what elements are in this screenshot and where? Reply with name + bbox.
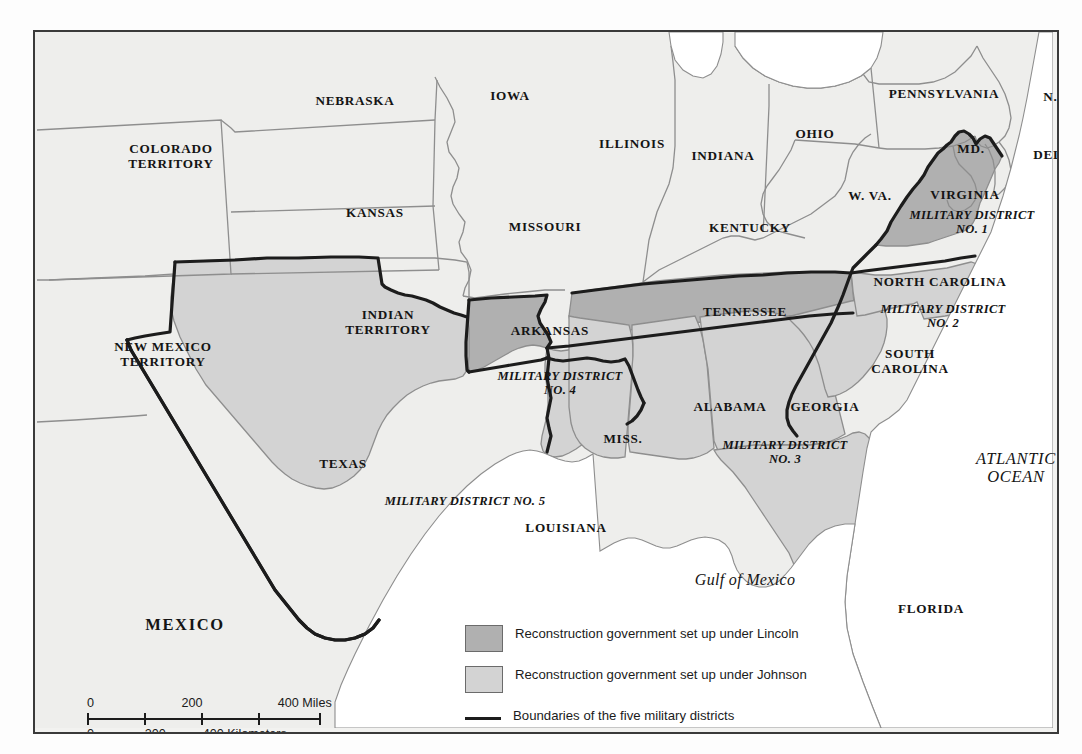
scale-tick (319, 713, 321, 725)
legend-item-lincoln: Reconstruction government set up under L… (465, 624, 807, 652)
legend-label-johnson: Reconstruction government set up under J… (515, 665, 807, 684)
scale-tick (87, 713, 89, 725)
boundary-line-icon (465, 717, 501, 720)
map-legend: Reconstruction government set up under L… (465, 624, 807, 734)
scale-tick (144, 713, 146, 725)
legend-swatch-johnson (465, 666, 503, 693)
legend-label-lincoln: Reconstruction government set up under L… (515, 624, 799, 643)
legend-swatch-boundary-line (465, 706, 501, 731)
scale-axis-line (87, 718, 321, 720)
scale-label: 0 (87, 696, 94, 710)
reconstruction-military-districts-map: .land{fill:#eeeeec;stroke:#8e8e8e;stroke… (0, 0, 1082, 754)
state-mississippi (569, 316, 633, 458)
map-frame: .land{fill:#eeeeec;stroke:#8e8e8e;stroke… (33, 30, 1059, 734)
scale-label: 0 (87, 727, 94, 734)
legend-item-johnson: Reconstruction government set up under J… (465, 665, 807, 693)
scale-label: 400 Kilometers (203, 727, 287, 734)
legend-swatch-lincoln (465, 625, 503, 652)
scale-miles-labels: 0200400 Miles (87, 696, 342, 711)
legend-label-district-boundary: Boundaries of the five military district… (513, 706, 734, 725)
legend-item-district-boundary: Boundaries of the five military district… (465, 706, 807, 731)
scale-tick (258, 713, 260, 725)
scale-bar-graphic (87, 713, 342, 725)
scale-label: 400 Miles (278, 696, 332, 710)
scale-tick (201, 713, 203, 725)
scale-kilometers-labels: 0200400 Kilometers (87, 727, 342, 734)
map-scale-bar: 0200400 Miles 0200400 Kilometers (87, 696, 342, 734)
scale-label: 200 (145, 727, 166, 734)
scale-label: 200 (181, 696, 202, 710)
